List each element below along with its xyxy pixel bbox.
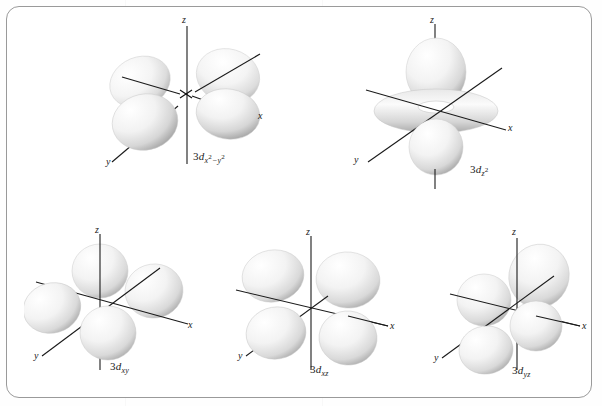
axis-label-y: y — [238, 350, 242, 361]
orbital-lobe — [409, 119, 463, 175]
orbital-lobe — [313, 249, 383, 311]
axis-label-y: y — [434, 352, 438, 363]
orbital-diagram-3d-yz — [424, 228, 599, 378]
orbital-diagram-3d-xz — [228, 228, 403, 378]
axis-label-z: z — [182, 14, 186, 25]
axis-label-x: x — [508, 122, 512, 133]
axis-label-x: x — [390, 320, 394, 331]
axis-label-z: z — [95, 224, 99, 235]
orbital-3d-xy: z x y — [24, 228, 199, 378]
axis-label-z: z — [512, 226, 516, 237]
axis-label-z: z — [430, 14, 434, 25]
orbital-lobe — [510, 301, 562, 351]
orbital-diagram-3d-z2 — [340, 14, 530, 189]
label-sub-a: xy — [121, 366, 129, 375]
axis-label-z: z — [306, 226, 310, 237]
axis-label-x: x — [188, 319, 192, 330]
axis-label-y: y — [34, 350, 38, 361]
orbital-label-3d-z2: 3dz2 — [470, 163, 488, 178]
orbital-lobe — [80, 306, 136, 360]
axis-label-y: y — [354, 154, 358, 165]
orbital-lobe — [242, 302, 310, 364]
orbital-3d-x2-y2: z x y — [92, 14, 282, 174]
axis-label-y: y — [106, 156, 110, 167]
axis-label-x: x — [582, 320, 586, 331]
orbital-lobe — [457, 274, 511, 326]
orbital-lobe — [122, 260, 187, 322]
orbital-3d-z2: z x y — [340, 14, 530, 189]
axis-label-x: x — [258, 110, 262, 121]
label-subscript: z2 — [481, 169, 488, 178]
orbital-lobe — [316, 308, 379, 368]
orbital-lobe — [456, 322, 516, 377]
orbital-torus-hole — [418, 101, 454, 113]
orbital-label-3d-xy: 3dxy — [110, 360, 129, 375]
label-sub-a: yz — [523, 370, 530, 379]
orbital-label-3d-yz: 3dyz — [512, 364, 530, 379]
label-sup-a: 2 — [485, 166, 489, 174]
figure-root: z x y 3dx2−y2 — [0, 0, 602, 406]
label-sub-a: xz — [321, 369, 328, 378]
orbital-3d-xz: z x y — [228, 228, 403, 378]
orbital-diagram-3d-xy — [24, 228, 199, 378]
orbital-lobe — [238, 245, 308, 307]
label-sup-b: 2 — [221, 153, 225, 161]
orbital-diagram-3d-x2-y2 — [92, 14, 282, 174]
orbital-3d-yz: z x y — [424, 228, 599, 378]
orbital-label-3d-x2-y2: 3dx2−y2 — [193, 150, 225, 165]
label-subscript: x2−y2 — [204, 156, 225, 165]
orbital-label-3d-xz: 3dxz — [310, 363, 328, 378]
